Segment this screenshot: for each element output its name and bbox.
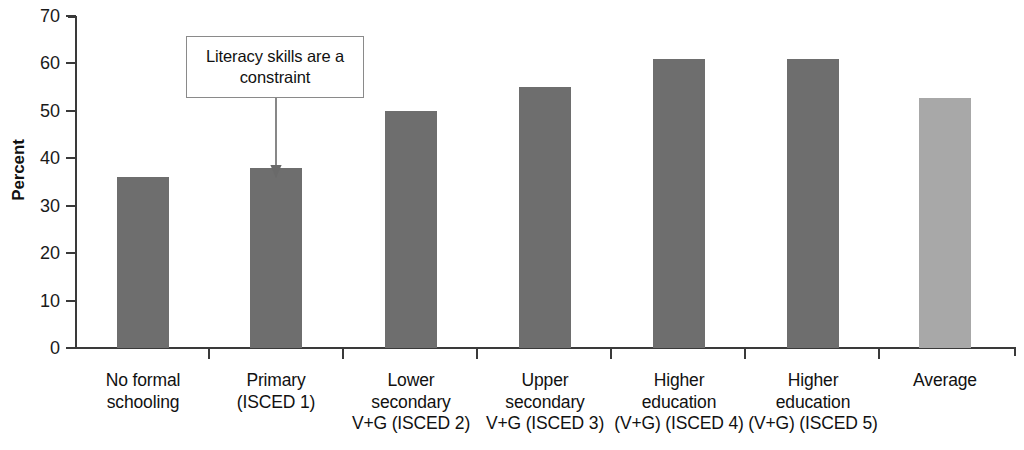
y-axis-tick xyxy=(66,110,76,112)
x-axis-category-label: Higher education (V+G) (ISCED 4) xyxy=(604,370,754,435)
x-axis-tick xyxy=(476,349,478,359)
y-axis-tick xyxy=(66,62,76,64)
x-axis-tick xyxy=(744,349,746,359)
y-axis-tick-label: 50 xyxy=(18,102,60,120)
annotation-callout: Literacy skills are a constraint xyxy=(186,36,364,98)
x-axis-right-cap xyxy=(1014,347,1016,356)
y-axis-tick-label: 20 xyxy=(18,244,60,262)
bar xyxy=(117,177,169,348)
y-axis-tick-label: 60 xyxy=(18,54,60,72)
x-axis-tick xyxy=(342,349,344,359)
annotation-arrow xyxy=(262,98,290,180)
y-axis-tick xyxy=(66,347,76,349)
bar-chart: Percent 010203040506070 No formal school… xyxy=(0,0,1024,450)
y-axis-tick xyxy=(66,300,76,302)
y-axis-tick-label: 70 xyxy=(18,7,60,25)
bar xyxy=(519,87,571,348)
y-axis-tick xyxy=(66,205,76,207)
x-axis-category-label: No formal schooling xyxy=(68,370,218,413)
x-axis-category-label: Primary (ISCED 1) xyxy=(201,370,351,413)
bar xyxy=(653,59,705,348)
x-axis-tick xyxy=(610,349,612,359)
bar xyxy=(787,59,839,348)
bar xyxy=(250,168,302,348)
x-axis-category-label: Average xyxy=(870,370,1020,392)
y-axis-tick xyxy=(66,15,76,17)
x-axis-tick xyxy=(208,349,210,359)
y-axis-tick xyxy=(66,157,76,159)
y-axis-tick-label: 0 xyxy=(18,339,60,357)
bar xyxy=(385,111,437,348)
y-axis-tick-label: 30 xyxy=(18,197,60,215)
annotation-callout-text: Literacy skills are a constraint xyxy=(187,46,363,88)
y-axis-tick xyxy=(66,252,76,254)
y-axis-tick-label: 10 xyxy=(18,292,60,310)
x-axis-category-label: Upper secondary V+G (ISCED 3) xyxy=(470,370,620,435)
bar xyxy=(919,98,971,348)
y-axis-tick-label: 40 xyxy=(18,149,60,167)
x-axis-category-label: Higher education (V+G) (ISCED 5) xyxy=(738,370,888,435)
x-axis-tick xyxy=(878,349,880,359)
x-axis-category-label: Lower secondary V+G (ISCED 2) xyxy=(336,370,486,435)
